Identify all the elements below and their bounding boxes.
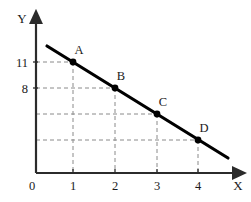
data-point-a[interactable] [70, 59, 77, 66]
chart-container: Y X 11 8 0 1 2 3 4 A B C D [0, 0, 251, 202]
data-point-b[interactable] [112, 85, 119, 92]
x-tick-label-3: 3 [154, 179, 160, 193]
y-axis-title: Y [17, 11, 27, 26]
data-point-c[interactable] [154, 111, 161, 118]
data-point-d[interactable] [195, 137, 202, 144]
point-label-b: B [117, 69, 125, 83]
x-tick-label-0: 0 [29, 179, 35, 193]
y-tick-label-8: 8 [22, 82, 28, 96]
x-tick-label-4: 4 [195, 179, 202, 193]
vertical-gridlines [73, 62, 198, 173]
y-tick-label-11: 11 [16, 56, 28, 70]
line-chart-svg: Y X 11 8 0 1 2 3 4 A B C D [0, 0, 251, 202]
x-tick-label-2: 2 [112, 179, 118, 193]
x-tick-label-1: 1 [70, 179, 76, 193]
point-label-d: D [199, 121, 208, 135]
point-label-c: C [159, 95, 167, 109]
x-axis-title: X [233, 178, 243, 193]
point-label-a: A [74, 43, 83, 57]
